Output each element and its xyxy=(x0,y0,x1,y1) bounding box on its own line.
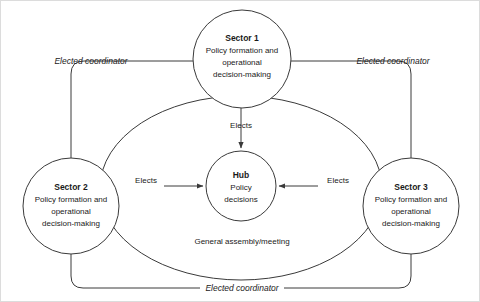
edge-label-elects-left: Elects xyxy=(135,176,157,185)
node-sector-1-line-3: decision-making xyxy=(213,70,271,79)
node-sector-2-line-2: operational xyxy=(51,207,91,216)
node-hub-line-1: Policy xyxy=(230,183,251,192)
diagram-canvas: Sector 1 Policy formation and operationa… xyxy=(0,0,480,302)
node-sector-1-line-1: Policy formation and xyxy=(206,46,278,55)
coordinator-line-left-vertical xyxy=(71,61,138,158)
edge-label-coordinator-bottom: Elected coordinator xyxy=(205,283,279,293)
node-sector-3-line-2: operational xyxy=(391,207,431,216)
node-sector-3-line-1: Policy formation and xyxy=(375,195,447,204)
coordinator-line-right-vertical xyxy=(346,61,411,158)
edge-label-elects-right: Elects xyxy=(327,176,349,185)
edge-label-coordinator-top-right: Elected coordinator xyxy=(356,56,430,66)
edge-label-elects-top: Elects xyxy=(230,121,252,130)
node-hub-line-2: decisions xyxy=(224,195,257,204)
node-sector-1-line-2: operational xyxy=(222,58,262,67)
node-sector-3-line-3: decision-making xyxy=(382,219,440,228)
node-sector-2-line-1: Policy formation and xyxy=(35,195,107,204)
node-sector-2-title: Sector 2 xyxy=(54,182,88,192)
node-sector-2-line-3: decision-making xyxy=(42,219,100,228)
edge-label-general-assembly: General assembly/meeting xyxy=(194,237,289,246)
node-sector-3[interactable] xyxy=(363,158,459,254)
node-sector-1-title: Sector 1 xyxy=(225,33,259,43)
node-hub-title: Hub xyxy=(233,170,250,180)
node-sector-3-title: Sector 3 xyxy=(394,182,428,192)
node-sector-2[interactable] xyxy=(23,158,119,254)
org-network-diagram: Sector 1 Policy formation and operationa… xyxy=(1,1,480,302)
edge-label-coordinator-top-left: Elected coordinator xyxy=(54,56,128,66)
